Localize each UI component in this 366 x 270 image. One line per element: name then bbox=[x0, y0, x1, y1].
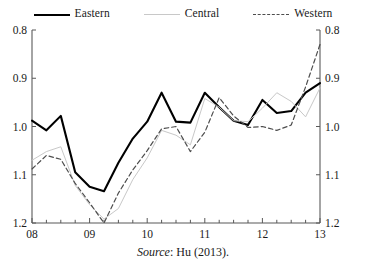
source-label: Source bbox=[137, 245, 170, 259]
y-axis-right-tick-label: 1.2 bbox=[325, 218, 351, 230]
y-axis-left-tick-label: 1.1 bbox=[1, 170, 27, 182]
x-axis-tick-label: 08 bbox=[19, 229, 45, 241]
x-axis-tick-label: 09 bbox=[77, 229, 103, 241]
legend-item-eastern: Eastern bbox=[34, 8, 110, 20]
chart-figure: Eastern Central Western 1.21.21.11.11.01… bbox=[0, 0, 366, 270]
source-text: : Hu (2013). bbox=[170, 245, 229, 259]
y-axis-left-tick-label: 1.0 bbox=[1, 122, 27, 134]
y-axis-right-tick-label: 0.8 bbox=[325, 25, 351, 37]
series-line-central bbox=[32, 88, 320, 219]
series-line-western bbox=[32, 44, 320, 223]
legend-label-central: Central bbox=[185, 8, 220, 20]
legend-line-central-icon bbox=[144, 10, 180, 19]
legend-line-western-icon bbox=[253, 10, 289, 19]
legend-item-western: Western bbox=[253, 8, 332, 20]
plot-area: 1.21.21.11.11.01.00.90.90.80.80809101112… bbox=[0, 22, 366, 232]
y-axis-left-tick-label: 0.9 bbox=[1, 73, 27, 85]
chart-legend: Eastern Central Western bbox=[0, 4, 366, 24]
chart-canvas bbox=[0, 22, 366, 232]
legend-item-central: Central bbox=[144, 8, 220, 20]
source-note: Source: Hu (2013). bbox=[0, 246, 366, 258]
x-axis-tick-label: 11 bbox=[192, 229, 218, 241]
legend-label-eastern: Eastern bbox=[75, 8, 110, 20]
x-axis-tick-label: 10 bbox=[134, 229, 160, 241]
series-layer bbox=[32, 44, 320, 223]
x-axis-tick-label: 12 bbox=[249, 229, 275, 241]
y-axis-right-tick-label: 0.9 bbox=[325, 73, 351, 85]
series-line-eastern bbox=[32, 83, 320, 191]
legend-label-western: Western bbox=[294, 8, 332, 20]
x-axis-tick-label: 13 bbox=[307, 229, 333, 241]
y-axis-left-tick-label: 0.8 bbox=[1, 25, 27, 37]
y-axis-right-tick-label: 1.1 bbox=[325, 170, 351, 182]
y-axis-left-tick-label: 1.2 bbox=[1, 218, 27, 230]
y-axis-right-tick-label: 1.0 bbox=[325, 122, 351, 134]
legend-line-eastern-icon bbox=[34, 10, 70, 19]
